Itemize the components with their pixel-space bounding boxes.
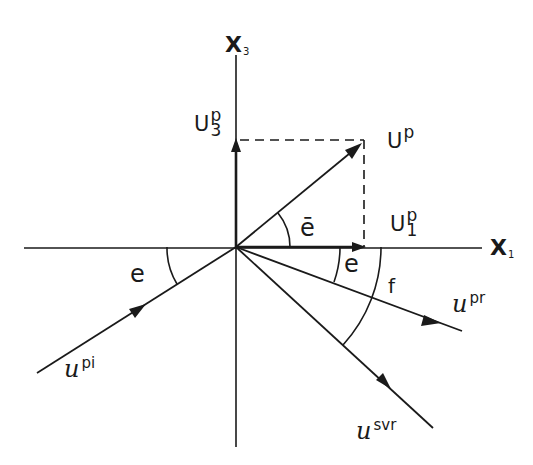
angle-e-bar-label: ē — [300, 216, 315, 240]
up-label: Up — [387, 131, 414, 152]
up-letter: U — [387, 129, 402, 153]
x3-axis-letter: X — [225, 32, 242, 57]
usvr-letter: u — [356, 417, 371, 445]
angle-e-right-label: e — [344, 252, 359, 276]
angle-f-label: f — [388, 276, 395, 296]
arc-e-bar — [278, 213, 290, 247]
upi-letter: u — [64, 355, 79, 383]
up-vector — [236, 149, 355, 247]
up3-label: Up3 — [194, 114, 221, 138]
x3-axis-subscript: 3 — [243, 46, 249, 57]
upr-arrowhead-icon — [421, 315, 441, 326]
usvr-superscript: svr — [373, 416, 396, 434]
up1-subscript: 1 — [406, 223, 417, 238]
upi-arrowhead-icon — [129, 304, 146, 318]
up3-letter: U — [194, 112, 209, 136]
usvr-arrowhead-icon — [376, 373, 391, 389]
x1-axis-label: X1 — [490, 237, 514, 260]
up1-letter: U — [390, 212, 405, 236]
diagram-canvas: X3 X1 Up3 Up1 Up upi upr usvr ē e e f — [0, 0, 533, 465]
up-superscript: p — [403, 125, 414, 140]
usvr-label: usvr — [356, 418, 396, 443]
up1-label: Up1 — [390, 214, 417, 238]
upi-label: upi — [64, 356, 95, 381]
arc-e-left — [167, 247, 177, 284]
upr-superscript: pr — [469, 289, 485, 307]
x1-axis-letter: X — [490, 235, 507, 260]
up3-subscript: 3 — [210, 123, 221, 138]
angle-e-left-label: e — [130, 262, 145, 286]
upr-letter: u — [452, 290, 467, 318]
x3-axis-label: X3 — [225, 34, 249, 57]
upr-label: upr — [452, 291, 485, 316]
up-arrowhead-icon — [345, 143, 362, 159]
usvr-vector — [236, 247, 433, 428]
upi-superscript: pi — [81, 354, 95, 372]
x1-axis-subscript: 1 — [508, 249, 514, 260]
arc-e-right — [334, 247, 340, 282]
up3-arrowhead-icon — [231, 138, 241, 152]
diagram-svg — [0, 0, 533, 465]
